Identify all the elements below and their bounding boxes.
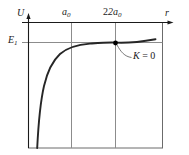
y-axis-arrowhead <box>26 13 30 19</box>
annotation-label-k-zero: K = 0 <box>133 51 155 61</box>
potential-energy-diagram: U r a0 22a0 E1 K = 0 <box>0 0 189 155</box>
annotation-leader-line <box>117 45 132 58</box>
x-axis-label: r <box>165 8 169 18</box>
x-tick-label-2a0: 22a0 <box>103 7 122 17</box>
x-axis-arrowhead <box>168 20 174 24</box>
turning-point-marker <box>113 41 118 46</box>
y-tick-label-E1: E1 <box>8 35 18 45</box>
x-tick-label-a0: a0 <box>62 7 71 17</box>
y-axis-label: U <box>17 8 24 18</box>
plot-canvas <box>0 0 189 155</box>
